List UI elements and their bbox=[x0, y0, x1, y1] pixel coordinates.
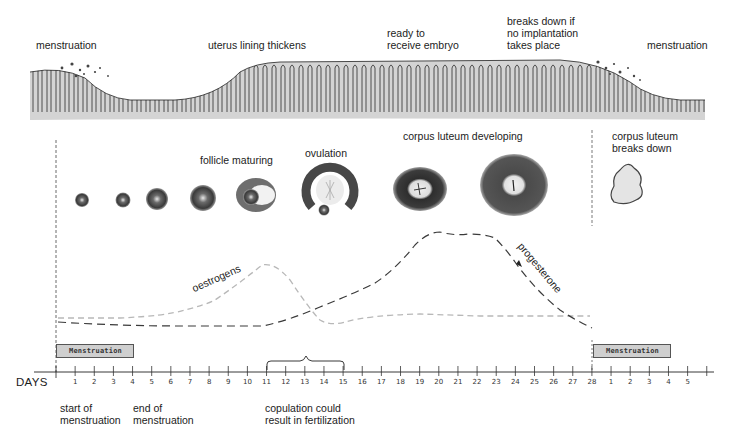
menstruation-bar-2: Menstruation bbox=[593, 344, 671, 358]
copulation-fertilization-label: copulation could result in fertilization bbox=[265, 402, 355, 426]
axis-tick-label: 5 bbox=[685, 378, 689, 386]
corpus-luteum-early bbox=[393, 167, 447, 211]
ovary-stages bbox=[75, 154, 642, 216]
ovulation-label: ovulation bbox=[305, 147, 347, 159]
progesterone-arrow-icon bbox=[516, 260, 522, 267]
corpus-luteum-mature bbox=[480, 154, 548, 216]
follicle-stage-3 bbox=[146, 188, 168, 210]
axis-tick-label: 10 bbox=[243, 378, 252, 386]
axis-tick-label: 4 bbox=[666, 378, 670, 386]
corpus-luteum-developing-label: corpus luteum developing bbox=[403, 130, 523, 142]
end-of-menstruation-label: end of menstruation bbox=[133, 402, 194, 426]
axis-tick-label: 11 bbox=[262, 378, 271, 386]
days-axis-label: DAYS bbox=[16, 376, 48, 388]
axis-tick-label: 24 bbox=[511, 378, 520, 386]
axis-tick-label: 23 bbox=[492, 378, 501, 386]
progesterone-curve bbox=[58, 232, 592, 328]
axis-tick-label: 25 bbox=[530, 378, 539, 386]
follicle-maturing-label: follicle maturing bbox=[200, 154, 273, 166]
axis-tick-label: 22 bbox=[473, 378, 482, 386]
axis-tick-label: 1 bbox=[73, 378, 77, 386]
axis-tick-label: 18 bbox=[396, 378, 405, 386]
ready-to-receive-embryo-label: ready to receive embryo bbox=[387, 27, 459, 51]
axis-tick-label: 4 bbox=[130, 378, 134, 386]
axis-tick-label: 26 bbox=[549, 378, 558, 386]
axis-tick-label: 20 bbox=[434, 378, 443, 386]
diagram-canvas bbox=[0, 0, 742, 440]
axis-tick-label: 6 bbox=[169, 378, 173, 386]
axis-tick-label: 28 bbox=[587, 378, 596, 386]
axis-tick-label: 8 bbox=[207, 378, 211, 386]
axis-tick-label: 9 bbox=[226, 378, 230, 386]
axis-tick-label: 3 bbox=[647, 378, 651, 386]
corpus-luteum-breaks-down-label: corpus luteum breaks down bbox=[612, 130, 678, 154]
follicle-stage-1 bbox=[75, 193, 89, 207]
menstruation-right-label: menstruation bbox=[647, 39, 708, 51]
axis-tick-label: 7 bbox=[188, 378, 192, 386]
axis-tick-label: 15 bbox=[339, 378, 348, 386]
axis-tick-label: 3 bbox=[111, 378, 115, 386]
breaks-down-if-no-implantation-label: breaks down if no implantation takes pla… bbox=[507, 15, 578, 51]
axis-tick-label: 21 bbox=[453, 378, 462, 386]
axis-tick-label: 12 bbox=[281, 378, 290, 386]
menstruation-left-label: menstruation bbox=[36, 39, 97, 51]
axis-tick-label: 5 bbox=[149, 378, 153, 386]
uterus-lining-illustration bbox=[30, 58, 705, 120]
axis-tick-label: 27 bbox=[568, 378, 577, 386]
axis-tick-label: 2 bbox=[628, 378, 632, 386]
menstruation-bar-1: Menstruation bbox=[56, 344, 134, 358]
start-of-menstruation-label: start of menstruation bbox=[60, 402, 121, 426]
ovulating-follicle bbox=[306, 167, 354, 215]
fertile-window-brace bbox=[267, 356, 344, 370]
follicle-stage-5 bbox=[236, 178, 276, 212]
axis-tick-label: 16 bbox=[358, 378, 367, 386]
axis-tick-label: 2 bbox=[92, 378, 96, 386]
follicle-stage-2 bbox=[116, 193, 131, 208]
axis-tick-label: 19 bbox=[415, 378, 424, 386]
axis-tick-label: 1 bbox=[609, 378, 613, 386]
follicle-stage-4 bbox=[190, 185, 216, 211]
corpus-luteum-degenerating bbox=[611, 164, 642, 203]
axis-tick-label: 13 bbox=[300, 378, 309, 386]
axis-tick-label: 17 bbox=[377, 378, 386, 386]
axis-tick-label: 14 bbox=[319, 378, 328, 386]
uterus-lining-thickens-label: uterus lining thickens bbox=[208, 39, 306, 51]
oestrogen-curve bbox=[58, 265, 590, 324]
